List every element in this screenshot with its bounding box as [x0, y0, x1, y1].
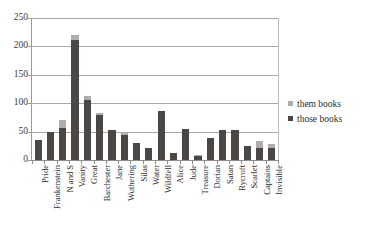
x-axis-tick-mark: [278, 160, 279, 164]
y-axis-tick-label: 250: [14, 13, 28, 23]
x-axis-tick-mark: [266, 160, 267, 164]
y-axis-tick-mark: [27, 160, 32, 161]
x-axis-tick-label: Dorian: [213, 165, 222, 189]
x-axis-tick-marks: [32, 160, 278, 164]
bars-layer: [32, 18, 278, 160]
bar-group: [121, 132, 128, 160]
x-axis-tick-mark: [167, 160, 168, 164]
y-axis-tick-mark: [27, 103, 32, 104]
y-axis-tick-label: 100: [14, 98, 28, 108]
bar-group: [145, 148, 152, 160]
x-axis-tick-label: Wuthering: [127, 165, 136, 201]
bar-segment: [84, 96, 91, 99]
x-axis-tick-label: Jane: [115, 165, 124, 180]
bar-group: [182, 129, 189, 160]
bar-segment: [59, 128, 66, 160]
bar-segment: [133, 143, 140, 160]
bar-group: [256, 141, 263, 160]
x-axis-tick-labels: PrideFrankensteinN and SVanityGreatBarch…: [32, 165, 278, 229]
bar-group: [47, 132, 54, 160]
bar-segment: [256, 141, 263, 147]
x-axis-tick-mark: [57, 160, 58, 164]
x-axis-tick-mark: [217, 160, 218, 164]
bar-group: [231, 130, 238, 160]
legend-item[interactable]: them books: [288, 98, 374, 109]
bar-segment: [194, 155, 201, 156]
bar-group: [219, 130, 226, 160]
x-axis-tick-mark: [192, 160, 193, 164]
bar-group: [158, 111, 165, 160]
x-axis-tick-mark: [143, 160, 144, 164]
bar-group: [71, 35, 78, 160]
x-axis-tick-label: Treasure: [201, 165, 210, 194]
bar-segment: [96, 115, 103, 160]
y-axis-tick-labels: 050100150200250: [0, 0, 30, 229]
bar-group: [133, 143, 140, 160]
bar-segment: [84, 100, 91, 160]
x-axis-tick-mark: [69, 160, 70, 164]
x-axis-tick-label: Invisible: [275, 165, 284, 195]
bar-segment: [207, 138, 214, 160]
y-axis-tick-mark: [27, 18, 32, 19]
x-axis-tick-label: Great: [90, 165, 99, 184]
y-axis-tick-mark: [27, 132, 32, 133]
x-axis-tick-mark: [94, 160, 95, 164]
legend-swatch-icon: [288, 116, 293, 121]
bar-segment: [145, 148, 152, 160]
bar-segment: [59, 120, 66, 127]
bar-segment: [121, 132, 128, 135]
x-axis-tick-mark: [44, 160, 45, 164]
x-axis-tick-mark: [241, 160, 242, 164]
x-axis-tick-mark: [204, 160, 205, 164]
bar-segment: [256, 148, 263, 160]
bar-segment: [71, 35, 78, 40]
x-axis-tick-mark: [130, 160, 131, 164]
x-axis-tick-label: Vanity: [78, 165, 87, 187]
x-axis-tick-mark: [32, 160, 33, 164]
x-axis-tick-label: Captains: [263, 165, 272, 195]
legend-label: those books: [297, 114, 342, 124]
x-axis-tick-mark: [81, 160, 82, 164]
x-axis-tick-label: Pride: [41, 165, 50, 183]
bar-segment: [35, 140, 42, 160]
bar-segment: [170, 153, 177, 160]
bar-segment: [121, 135, 128, 160]
bar-segment: [268, 148, 275, 160]
plot-right-border: [278, 18, 279, 160]
bar-group: [96, 113, 103, 160]
y-axis-tick-label: 200: [14, 41, 28, 51]
x-axis-tick-mark: [106, 160, 107, 164]
bar-group: [268, 144, 275, 160]
bar-segment: [231, 130, 238, 160]
x-axis-tick-label: Water: [152, 165, 161, 185]
y-axis-tick-mark: [27, 46, 32, 47]
bar-segment: [71, 40, 78, 160]
x-axis-tick-label: Satan: [226, 165, 235, 184]
x-axis-tick-label: Frankenstein: [53, 165, 62, 209]
x-axis-tick-mark: [229, 160, 230, 164]
bar-chart: 050100150200250 PrideFrankensteinN and S…: [0, 0, 375, 229]
x-axis-tick-mark: [253, 160, 254, 164]
legend-swatch-icon: [288, 101, 293, 106]
bar-group: [35, 140, 42, 160]
legend-label: them books: [297, 99, 341, 109]
y-axis-tick-mark: [27, 75, 32, 76]
x-axis-tick-mark: [118, 160, 119, 164]
x-axis-tick-label: Alice: [176, 165, 185, 183]
bar-group: [244, 146, 251, 160]
bar-group: [59, 120, 66, 160]
bar-segment: [158, 111, 165, 160]
bar-segment: [96, 113, 103, 114]
chart-legend: them booksthose books: [288, 98, 374, 128]
bar-group: [108, 130, 115, 160]
x-axis-tick-label: Rycroft: [238, 165, 247, 191]
legend-item[interactable]: those books: [288, 113, 374, 124]
bar-segment: [182, 129, 189, 160]
x-axis-tick-label: Barchester: [103, 165, 112, 201]
x-axis-tick-mark: [155, 160, 156, 164]
bar-segment: [268, 144, 275, 149]
x-axis-tick-mark: [180, 160, 181, 164]
bar-group: [170, 153, 177, 160]
bar-segment: [47, 132, 54, 160]
x-axis-tick-label: Wildfell: [164, 165, 173, 193]
